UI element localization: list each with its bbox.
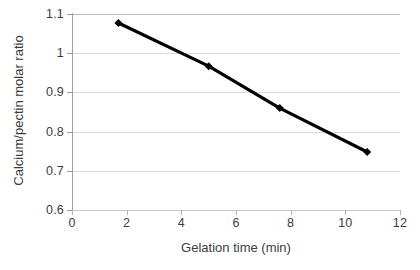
series-line — [119, 23, 368, 152]
chart-container: Calcium/pectin molar ratio 0.60.70.80.91… — [0, 0, 420, 270]
data-series-layer — [0, 0, 420, 270]
x-axis-title: Gelation time (min) — [72, 240, 400, 255]
